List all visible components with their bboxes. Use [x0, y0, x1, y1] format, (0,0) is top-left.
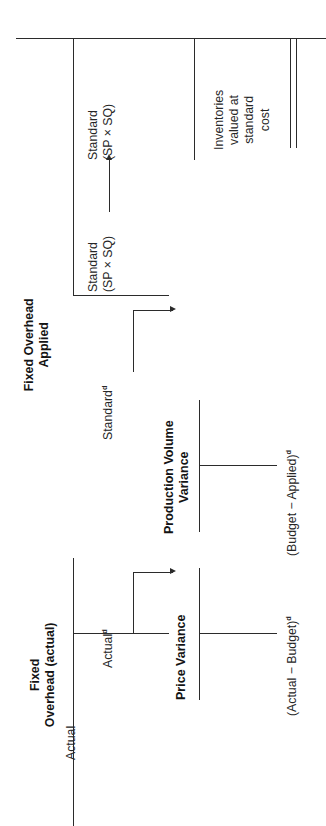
amount-standard-value: Standard [101, 390, 115, 440]
formula-price-variance-text: (Actual − Budget)d [284, 616, 299, 716]
amount-standard-applied-value-wrap: Standardd [100, 386, 115, 440]
label-production-volume-variance: Production Volume Variance [162, 420, 192, 534]
amount-actual: Actuald [100, 629, 115, 668]
header-fixed-overhead-actual: Fixed Overhead (actual) [28, 595, 58, 755]
formula-pvv-value: (Budget − Applied) [285, 454, 299, 556]
header-fixed-overhead-applied: Fixed Overhead Applied [22, 265, 52, 425]
label-actual-base: Actual [64, 726, 78, 760]
label-inventories-note: Inventories valued at standard cost [212, 90, 273, 150]
screen-text-layer: Fixed Overhead (actual) Fixed Overhead A… [0, 0, 326, 826]
label-standard-sp-sq-applied: Standard (SP × SQ) [86, 236, 116, 292]
formula-production-volume-variance-text: (Budget − Applied)d [284, 450, 299, 556]
formula-price-value: (Actual − Budget) [285, 621, 299, 716]
label-standard-sp-sq-output: Standard (SP × SQ) [86, 104, 116, 160]
amount-standard-sup: d [100, 386, 109, 391]
label-price-variance: Price Variance [174, 615, 189, 700]
amount-actual-sup: d [100, 629, 109, 634]
formula-price-sup: d [284, 616, 293, 621]
formula-pvv-sup: d [284, 450, 293, 455]
amount-actual-value: Actual [101, 634, 115, 668]
